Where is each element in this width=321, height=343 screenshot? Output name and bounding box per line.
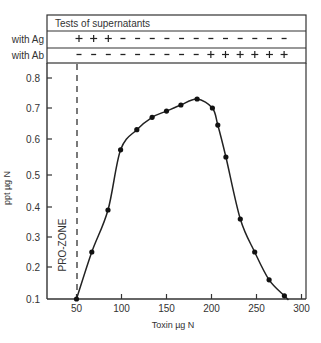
y-axis-ticks: 0.10.20.30.40.50.60.70.8 (26, 73, 52, 305)
data-point (164, 109, 169, 114)
data-point (223, 154, 228, 159)
data-point (210, 105, 215, 110)
y-tick-label: 0.4 (26, 202, 40, 213)
x-tick-label: 200 (203, 303, 220, 314)
data-point (105, 207, 110, 212)
x-tick-label: 150 (158, 303, 175, 314)
y-tick-label: 0.3 (26, 232, 40, 243)
table-title: Tests of supernatants (55, 18, 150, 29)
x-tick-label: 250 (248, 303, 265, 314)
y-tick-label: 0.6 (26, 134, 40, 145)
data-points (74, 96, 287, 301)
signs-row-ag (76, 35, 287, 42)
y-tick-label: 0.2 (26, 262, 40, 273)
x-tick-label: 50 (71, 303, 83, 314)
row-label-ab: with Ab (11, 50, 45, 61)
x-axis-ticks: 50100150200250300 (71, 294, 310, 314)
precipitin-chart: Tests of supernatants with Ag with Ab 0.… (0, 0, 321, 343)
data-point (74, 296, 79, 301)
x-tick-label: 300 (293, 303, 310, 314)
data-point (134, 127, 139, 132)
y-tick-label: 0.8 (26, 73, 40, 84)
row-label-ag: with Ag (11, 34, 44, 45)
data-point (252, 249, 257, 254)
data-point (282, 293, 287, 298)
x-axis-label: Toxin µg N (152, 320, 195, 330)
data-point (150, 115, 155, 120)
y-tick-label: 0.7 (26, 103, 40, 114)
y-tick-label: 0.5 (26, 170, 40, 181)
data-point (215, 122, 220, 127)
signs-row-ab (77, 51, 288, 58)
data-point (195, 96, 200, 101)
data-point (89, 249, 94, 254)
y-tick-label: 0.1 (26, 294, 40, 305)
data-point (178, 102, 183, 107)
data-curve (77, 99, 289, 300)
x-tick-label: 100 (113, 303, 130, 314)
y-axis-label: ppt µg N (2, 171, 12, 205)
plot-area: 0.10.20.30.40.50.60.70.8 501001502002503… (2, 63, 310, 330)
data-point (267, 277, 272, 282)
prozone-label: PRO-ZONE (57, 218, 68, 271)
supernatant-test-table: Tests of supernatants with Ag with Ab (11, 15, 306, 63)
data-point (118, 147, 123, 152)
data-point (238, 216, 243, 221)
